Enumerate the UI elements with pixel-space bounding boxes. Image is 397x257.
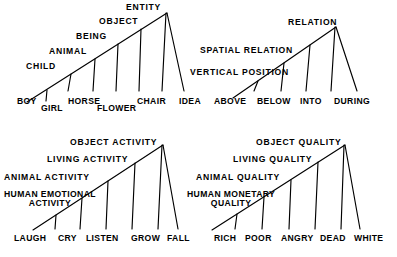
leaf-label-into: INTO [300, 97, 322, 106]
node-label-human-monetary-quality: HUMAN MONETARY QUALITY [187, 190, 275, 208]
node-label-entity: ENTITY [126, 3, 161, 12]
entity-drop-chair-mid [116, 44, 118, 91]
hierarchy-lines [0, 0, 397, 257]
entity-drop-flower [93, 59, 95, 91]
node-label-living-quality: LIVING QUALITY [233, 155, 312, 164]
node-label-human-emotional-activity: HUMAN EMOTIONAL ACTIVITY [4, 190, 96, 208]
leaf-label-laugh: LAUGH [14, 234, 46, 243]
leaf-label-cry: CRY [58, 234, 77, 243]
quality-drop-white-mid [315, 162, 318, 229]
leaf-label-chair: CHAIR [137, 97, 166, 106]
quality-drop-white-inner [341, 145, 344, 229]
node-label-child: CHILD [26, 62, 56, 71]
leaf-label-dead: DEAD [320, 234, 346, 243]
node-label-relation: RELATION [288, 18, 337, 27]
leaf-label-horse: HORSE [68, 97, 100, 106]
leaf-label-below: BELOW [257, 97, 291, 106]
leaf-label-fall: FALL [167, 234, 190, 243]
quality-drop-dead [289, 180, 291, 229]
node-label-living-activity: LIVING ACTIVITY [47, 155, 128, 164]
node-label-animal-activity: ANIMAL ACTIVITY [4, 173, 90, 182]
entity-spine [27, 13, 167, 102]
activity-drop-fall [163, 145, 178, 229]
relation-drop-during [336, 27, 357, 91]
leaf-label-above: ABOVE [214, 97, 246, 106]
entity-drop-idea-inner [162, 13, 166, 91]
quality-drop-white [345, 145, 360, 229]
entity-drop-chair [139, 29, 141, 91]
node-label-vertical-position: VERTICAL POSITION [190, 68, 289, 77]
node-label-animal: ANIMAL [49, 47, 87, 56]
leaf-label-poor: POOR [245, 234, 272, 243]
activity-drop-fall-mid [132, 163, 135, 229]
leaf-label-during: DURING [334, 97, 370, 106]
node-label-human-monetary-quality-line2: QUALITY [187, 199, 275, 208]
node-label-object-activity: OBJECT ACTIVITY [70, 138, 157, 147]
node-label-being: BEING [76, 32, 107, 41]
leaf-label-listen: LISTEN [86, 234, 119, 243]
leaf-label-white: WHITE [354, 234, 383, 243]
leaf-label-grow: GROW [131, 234, 160, 243]
node-label-object: OBJECT [99, 17, 138, 26]
leaf-label-angry: ANGRY [281, 234, 313, 243]
node-label-animal-quality: ANIMAL QUALITY [196, 173, 280, 182]
leaf-label-flower: FLOWER [97, 104, 136, 113]
node-label-object-quality: OBJECT QUALITY [256, 138, 341, 147]
node-label-human-emotional-activity-line2: ACTIVITY [4, 199, 96, 208]
leaf-label-boy: BOY [17, 97, 37, 106]
entity-drop-girl [46, 90, 47, 101]
diagram-canvas: CHILD ANIMAL BEING OBJECT ENTITY BOY GIR… [0, 0, 397, 257]
leaf-label-girl: GIRL [41, 104, 63, 113]
relation-drop-during-mid [306, 45, 310, 91]
leaf-label-idea: IDEA [179, 97, 201, 106]
activity-drop-grow [106, 181, 108, 229]
activity-drop-cry [55, 215, 56, 229]
leaf-label-rich: RICH [214, 234, 236, 243]
quality-drop-poor [235, 214, 237, 229]
relation-spine [233, 27, 336, 98]
activity-drop-fall-inner [158, 145, 162, 229]
entity-drop-horse [68, 74, 71, 91]
node-label-spatial-relation: SPATIAL RELATION [200, 46, 293, 55]
entity-drop-idea [167, 13, 184, 91]
relation-drop-during-inner [331, 27, 335, 91]
